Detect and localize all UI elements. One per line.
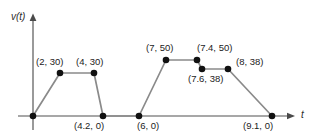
data-point-8-38 xyxy=(225,66,232,73)
data-point-7-50 xyxy=(163,57,170,64)
data-point-0-0 xyxy=(30,113,37,120)
point-label-4.2-0: (4.2, 0) xyxy=(74,121,104,131)
data-point-4-30 xyxy=(91,70,98,77)
point-label-9.1-0: (9.1, 0) xyxy=(243,121,273,131)
velocity-time-graph-figure: v(t) t (2, 30) (4, 30) (4.2, 0) (6, 0) (… xyxy=(0,0,315,138)
point-label-4-30: (4, 30) xyxy=(76,57,103,67)
point-label-2-30: (2, 30) xyxy=(36,57,63,67)
data-series-path xyxy=(33,60,272,116)
point-label-7.6-38: (7.6, 38) xyxy=(188,74,223,84)
data-point-6-0 xyxy=(136,113,143,120)
x-axis-arrowhead xyxy=(287,113,295,120)
data-point-4.2-0 xyxy=(100,113,107,120)
x-axis-title: t xyxy=(301,110,304,120)
data-point-2-30 xyxy=(57,70,64,77)
data-point-9.1-0 xyxy=(269,113,276,120)
data-point-7.6-38 xyxy=(199,66,206,73)
y-axis-arrowhead xyxy=(30,14,37,22)
point-label-6-0: (6, 0) xyxy=(137,121,159,131)
velocity-polyline xyxy=(33,60,272,116)
chart-canvas xyxy=(0,0,315,138)
point-label-8-38: (8, 38) xyxy=(236,57,263,67)
point-label-7.4-50: (7.4, 50) xyxy=(197,43,232,53)
data-point-7.4-50 xyxy=(194,57,201,64)
point-label-7-50: (7, 50) xyxy=(146,43,173,53)
y-axis-title: v(t) xyxy=(11,12,25,22)
